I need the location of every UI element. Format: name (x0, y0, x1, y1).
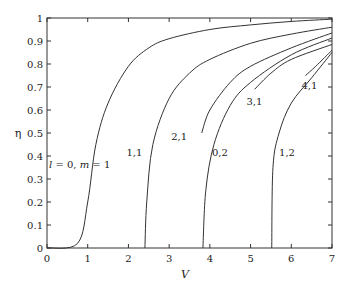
curve-label: 1,1 (126, 147, 142, 158)
y-tick-label: 1 (37, 13, 43, 24)
x-axis-label: V (181, 268, 190, 281)
curve-l-0-m-1 (47, 19, 332, 248)
curve-label: 0,2 (212, 147, 228, 158)
y-tick-label: 0.9 (27, 36, 43, 47)
x-tick-label: 2 (125, 253, 131, 264)
y-tick-label: 0.1 (27, 220, 43, 231)
x-tick-label: 7 (329, 253, 335, 264)
curves (47, 19, 332, 248)
curve-label: 3,1 (247, 96, 263, 107)
x-tick-label: 6 (288, 253, 294, 264)
curve-label: 2,1 (171, 131, 187, 142)
x-tick-label: 3 (166, 253, 172, 264)
y-tick-label: 0.7 (27, 82, 43, 93)
curve-labels: l = 0, m = 11,12,10,23,11,24,1 (49, 80, 317, 169)
curve-label: 4,1 (301, 80, 317, 91)
y-tick-label: 0.2 (27, 197, 43, 208)
y-tick-label: 0.8 (27, 59, 43, 70)
curve-label: l = 0, m = 1 (49, 159, 110, 170)
x-tick-label: 4 (207, 253, 213, 264)
x-tick-label: 5 (247, 253, 253, 264)
plot-border (47, 18, 332, 248)
plot-frame (47, 18, 332, 248)
y-tick-label: 0 (37, 243, 43, 254)
curve-4-1 (306, 50, 332, 75)
curve-label: 1,2 (279, 147, 295, 158)
y-tick-label: 0.4 (27, 151, 43, 162)
y-tick-label: 0.3 (27, 174, 43, 185)
y-tick-label: 0.6 (27, 105, 43, 116)
chart: 01234567 00.10.20.30.40.50.60.70.80.91 l… (0, 0, 348, 290)
x-tick-label: 1 (85, 253, 91, 264)
y-tick-label: 0.5 (27, 128, 43, 139)
x-tick-label: 0 (44, 253, 50, 264)
y-axis-label: η (15, 127, 22, 140)
